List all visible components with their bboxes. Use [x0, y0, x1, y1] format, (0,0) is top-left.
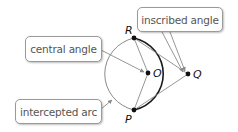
intercepted-arc-label: intercepted arc [15, 99, 102, 124]
point-P [132, 108, 137, 113]
point-O [146, 71, 151, 76]
point-label-O: O [153, 68, 162, 79]
inscribed-angle-label: inscribed angle [137, 7, 223, 32]
intercepted-arc-arrow [101, 100, 112, 109]
point-Q [186, 72, 191, 77]
intercepted-arc-left [105, 38, 134, 110]
central-angle-label: central angle [25, 36, 102, 62]
point-label-Q: Q [193, 69, 202, 80]
point-label-R: R [125, 25, 133, 36]
point-label-P: P [125, 114, 132, 125]
